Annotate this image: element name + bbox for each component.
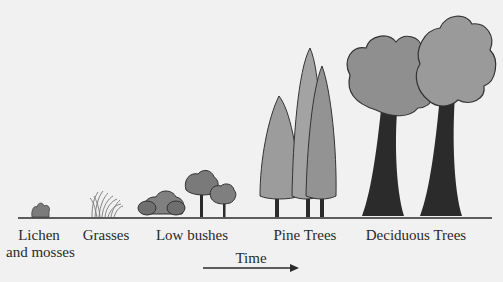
- axis-label-time: Time: [231, 250, 271, 267]
- stage-label-grasses: Grasses: [80, 227, 132, 244]
- small-tree-icon: [185, 170, 236, 217]
- succession-diagram: Lichen and mosses Grasses Low bushes Pin…: [0, 0, 503, 282]
- lichen-icon: [32, 203, 50, 217]
- deciduous-tree-icon: [347, 16, 496, 216]
- label-line: Lichen: [6, 227, 72, 244]
- stage-label-deciduous-trees: Deciduous Trees: [362, 227, 470, 244]
- label-line: and mosses: [6, 244, 72, 261]
- stage-label-low-bushes: Low bushes: [154, 227, 230, 244]
- grass-icon: [90, 191, 123, 217]
- stage-label-lichen: Lichen and mosses: [6, 227, 72, 261]
- stage-label-pine-trees: Pine Trees: [265, 227, 345, 244]
- pine-tree-icon: [260, 48, 336, 217]
- low-bush-icon: [138, 191, 185, 215]
